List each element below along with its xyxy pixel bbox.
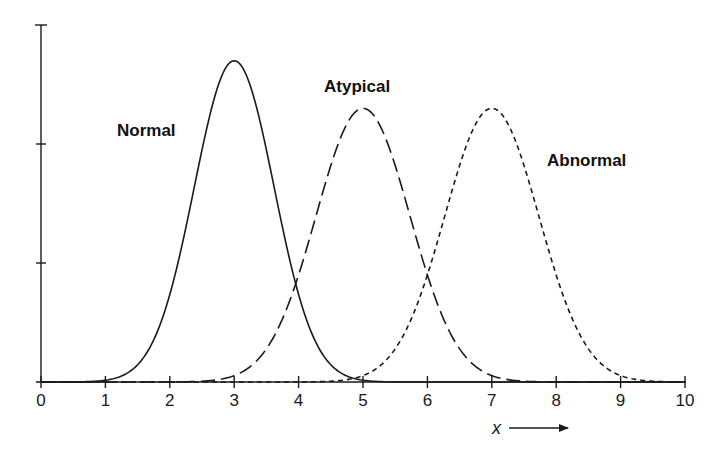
x-tick-label: 6 — [423, 391, 432, 410]
x-variable-label: x — [491, 418, 502, 438]
x-tick-label: 0 — [36, 391, 45, 410]
normal-curve — [41, 61, 685, 382]
atypical-curve — [41, 108, 685, 382]
x-tick-label: 1 — [101, 391, 110, 410]
x-tick-label: 5 — [358, 391, 367, 410]
x-tick-label: 4 — [294, 391, 303, 410]
x-tick-label: 8 — [551, 391, 560, 410]
abnormal-curve — [41, 108, 685, 382]
x-tick-label: 10 — [676, 391, 695, 410]
x-tick-label: 3 — [229, 391, 238, 410]
distribution-chart: 0 1 2 3 4 5 6 7 8 9 10 Normal Atypical A… — [0, 0, 720, 454]
x-tick-label: 9 — [616, 391, 625, 410]
x-tick-label: 7 — [487, 391, 496, 410]
y-axis — [35, 25, 47, 382]
atypical-label: Atypical — [324, 77, 390, 96]
abnormal-label: Abnormal — [547, 151, 626, 170]
normal-label: Normal — [117, 121, 176, 140]
x-tick-label: 2 — [165, 391, 174, 410]
x-tick-labels: 0 1 2 3 4 5 6 7 8 9 10 — [36, 391, 694, 410]
x-axis-title: x — [491, 418, 568, 438]
